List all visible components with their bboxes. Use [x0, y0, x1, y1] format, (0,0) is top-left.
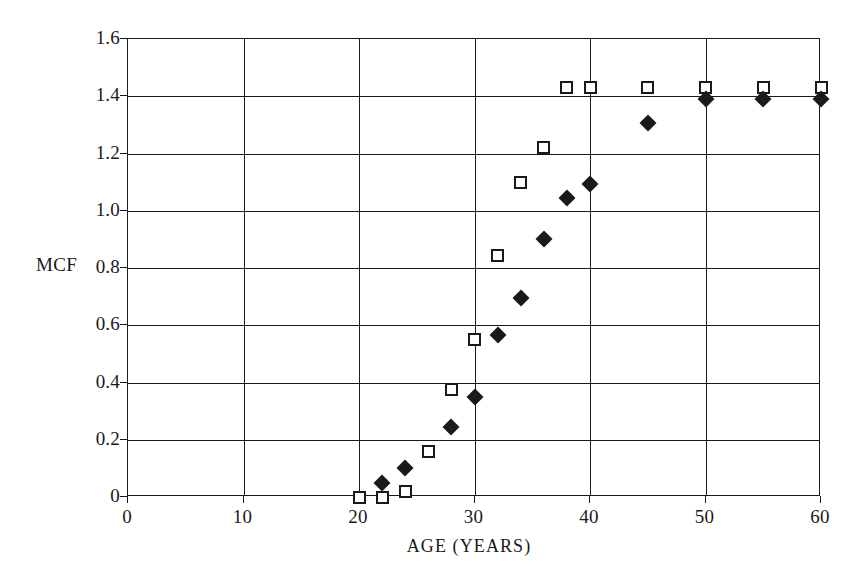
gridline-horizontal: [128, 325, 819, 326]
x-tick-label: 30: [434, 506, 514, 528]
y-axis-tick: [120, 382, 127, 383]
gridline-vertical: [359, 39, 360, 495]
x-tick-label: 0: [87, 506, 167, 528]
x-tick-label: 40: [549, 506, 629, 528]
scatter-chart-figure: MCF 00.20.40.60.81.01.21.41.6 0102030405…: [0, 0, 858, 582]
gridline-horizontal: [128, 154, 819, 155]
x-axis-tick: [705, 496, 706, 503]
gridline-horizontal: [128, 96, 819, 97]
gridline-horizontal: [128, 268, 819, 269]
gridline-horizontal: [128, 440, 819, 441]
data-point-diamond: [558, 189, 575, 206]
y-tick-label: 0.4: [60, 372, 120, 391]
data-point-square: [353, 491, 366, 504]
data-point-diamond: [443, 418, 460, 435]
x-tick-label: 50: [665, 506, 745, 528]
gridline-horizontal: [128, 211, 819, 212]
gridline-horizontal: [128, 383, 819, 384]
data-point-square: [468, 333, 481, 346]
data-point-square: [376, 491, 389, 504]
data-point-diamond: [374, 474, 391, 491]
y-tick-label: 0.8: [60, 257, 120, 276]
data-point-square: [641, 81, 654, 94]
y-tick-label: 1.4: [60, 85, 120, 104]
data-point-square: [491, 249, 504, 262]
y-axis-tick: [120, 95, 127, 96]
y-tick-label: 0: [60, 486, 120, 505]
y-tick-label: 1.6: [60, 28, 120, 47]
data-point-diamond: [639, 115, 656, 132]
y-tick-label: 1.0: [60, 200, 120, 219]
data-point-square: [514, 176, 527, 189]
gridline-vertical: [475, 39, 476, 495]
x-tick-label: 20: [318, 506, 398, 528]
data-point-diamond: [582, 175, 599, 192]
data-point-square: [584, 81, 597, 94]
data-point-square: [560, 81, 573, 94]
data-point-square: [537, 141, 550, 154]
y-axis-tick: [120, 439, 127, 440]
x-axis-tick: [243, 496, 244, 503]
gridline-vertical: [244, 39, 245, 495]
y-axis-tick: [120, 267, 127, 268]
x-axis-tick: [474, 496, 475, 503]
x-tick-label: 60: [780, 506, 858, 528]
gridline-vertical: [590, 39, 591, 495]
y-axis-tick: [120, 210, 127, 211]
x-axis-tick: [127, 496, 128, 503]
data-point-diamond: [397, 460, 414, 477]
data-point-square: [445, 383, 458, 396]
plot-area: [127, 38, 820, 496]
y-tick-label: 0.2: [60, 429, 120, 448]
data-point-diamond: [535, 231, 552, 248]
x-tick-label: 10: [203, 506, 283, 528]
data-point-diamond: [489, 327, 506, 344]
y-axis-tick: [120, 324, 127, 325]
data-point-diamond: [466, 388, 483, 405]
y-tick-label: 1.2: [60, 143, 120, 162]
data-point-square: [399, 485, 412, 498]
y-tick-label: 0.6: [60, 314, 120, 333]
y-axis-tick: [120, 153, 127, 154]
x-axis-title: AGE (YEARS): [0, 536, 858, 557]
y-axis-tick: [120, 38, 127, 39]
data-point-diamond: [512, 290, 529, 307]
y-axis-tick: [120, 496, 127, 497]
x-axis-tick: [820, 496, 821, 503]
x-axis-tick: [589, 496, 590, 503]
data-point-square: [422, 445, 435, 458]
